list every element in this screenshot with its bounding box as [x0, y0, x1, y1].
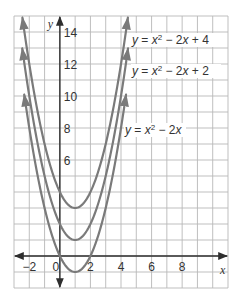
y-tick-label: 12: [64, 58, 78, 72]
x-tick-label: 6: [148, 260, 155, 274]
equation-label: y = x2 − 2x + 2: [131, 64, 209, 79]
x-tick-label: 8: [179, 260, 186, 274]
x-tick-label: 0: [53, 260, 60, 274]
parabola-curve-right-2: [75, 95, 126, 272]
y-tick-label: 14: [64, 26, 78, 40]
y-tick-label: 10: [64, 90, 78, 104]
y-tick-label: 6: [64, 154, 71, 168]
y-tick-label: 8: [64, 122, 71, 136]
x-axis-label: x: [219, 263, 226, 277]
x-tick-label: −2: [22, 260, 36, 274]
parabola-family-graph: −20246868101214xy y = x2 − 2x + 4y = x2 …: [0, 0, 240, 306]
parabola-curve-left-0: [22, 18, 75, 208]
x-tick-label: 4: [118, 260, 125, 274]
y-axis-label: y: [47, 17, 54, 31]
parabola-curve-right-0: [75, 18, 128, 208]
x-tick-label: 2: [87, 260, 94, 274]
equation-label: y = x2 − 2x + 4: [131, 33, 209, 48]
